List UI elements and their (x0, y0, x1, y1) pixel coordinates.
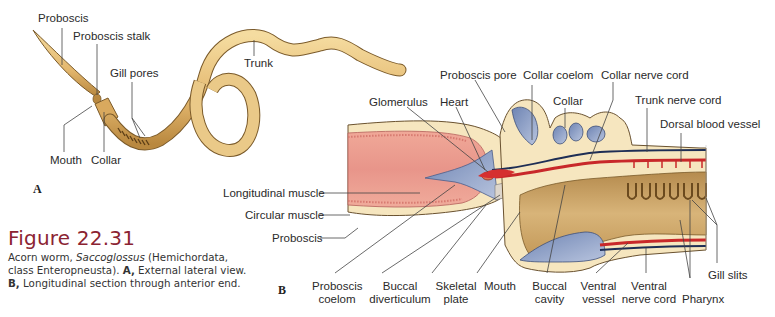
label-skeletal-plate: Skeletalplate (431, 280, 481, 306)
figure-22-31: Proboscis Proboscis stalk Gill pores Tru… (0, 0, 775, 317)
label-line: cavity (527, 293, 572, 306)
label-trunk-nerve-cord: Trunk nerve cord (635, 94, 722, 107)
label-ventral-vessel: Ventralvessel (576, 280, 621, 306)
label-proboscis-pore: Proboscis pore (440, 69, 517, 82)
label-proboscis-stalk: Proboscis stalk (73, 30, 150, 43)
figure-caption: Acorn worm, Saccoglossus (Hemichordata, … (8, 251, 248, 290)
label-line: Ventral (576, 280, 621, 293)
caption-panel-a-ref: A, (123, 264, 135, 276)
label-line: vessel (576, 293, 621, 306)
label-line: Buccal (527, 280, 572, 293)
caption-panel-b-ref: B, (8, 277, 20, 289)
label-gill-pores: Gill pores (110, 67, 159, 80)
label-collar-nerve-cord: Collar nerve cord (601, 69, 689, 82)
worm-external-view (33, 28, 400, 152)
label-longitudinal-muscle: Longitudinal muscle (223, 187, 325, 200)
label-gill-slits: Gill slits (708, 269, 748, 282)
figure-number: Figure 22.31 (8, 226, 135, 250)
label-pharynx: Pharynx (682, 293, 724, 306)
label-trunk: Trunk (244, 57, 273, 70)
label-buccal-diverticulum: Buccaldiverticulum (365, 280, 435, 306)
caption-genus: Saccoglossus (76, 251, 145, 263)
label-line: diverticulum (365, 293, 435, 306)
label-collar-a: Collar (91, 154, 121, 167)
label-line: Skeletal (431, 280, 481, 293)
caption-text: Longitudinal section through anterior en… (20, 277, 241, 289)
label-proboscis-a: Proboscis (38, 12, 89, 25)
label-collar-coelom: Collar coelom (523, 69, 593, 82)
label-circular-muscle: Circular muscle (245, 209, 324, 222)
label-buccal-cavity: Buccalcavity (527, 280, 572, 306)
longitudinal-section (320, 80, 717, 278)
label-proboscis-b: Proboscis (272, 232, 323, 245)
panel-a-tag: A (33, 182, 42, 197)
label-glomerulus: Glomerulus (369, 96, 428, 109)
panel-b-tag: B (278, 283, 286, 298)
caption-text: Acorn worm, (8, 251, 76, 263)
label-dorsal-blood-vessel: Dorsal blood vessel (660, 118, 760, 131)
label-line: Buccal (365, 280, 435, 293)
label-mouth-b: Mouth (480, 280, 520, 293)
label-line: Proboscis (312, 280, 362, 293)
label-mouth-a: Mouth (50, 154, 82, 167)
label-heart: Heart (440, 96, 468, 109)
label-line: Ventral (619, 280, 679, 293)
label-collar-b: Collar (553, 95, 583, 108)
label-line: plate (431, 293, 481, 306)
label-proboscis-coelom: Probosciscoelom (312, 280, 362, 306)
label-line: nerve cord (619, 293, 679, 306)
label-line: coelom (312, 293, 362, 306)
caption-text: External lateral view. (135, 264, 247, 276)
label-ventral-nerve-cord: Ventralnerve cord (619, 280, 679, 306)
